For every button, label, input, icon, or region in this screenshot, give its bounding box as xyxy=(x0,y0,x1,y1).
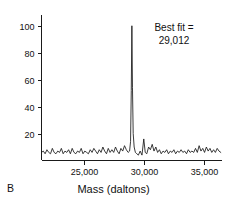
y-tick-label: 100 xyxy=(19,22,34,32)
best-fit-annotation: Best fit = 29,012 xyxy=(128,22,220,47)
panel-letter: B xyxy=(7,182,14,194)
mass-spectrum-figure: 20406080100 25,00030,00035,000 Best fit … xyxy=(0,0,227,203)
x-tick-label: 25,000 xyxy=(71,167,99,177)
y-tick-label: 40 xyxy=(24,103,34,113)
y-tick-label: 80 xyxy=(24,49,34,59)
y-axis-ticks: 20406080100 xyxy=(19,22,41,140)
x-tick-label: 30,000 xyxy=(131,167,159,177)
y-tick-label: 20 xyxy=(24,130,34,140)
best-fit-value: 29,012 xyxy=(128,35,220,48)
best-fit-label: Best fit = xyxy=(154,22,193,33)
y-tick-label: 60 xyxy=(24,76,34,86)
x-axis-title: Mass (daltons) xyxy=(0,183,227,195)
x-axis-ticks: 25,00030,00035,000 xyxy=(71,161,219,177)
x-tick-label: 35,000 xyxy=(191,167,219,177)
